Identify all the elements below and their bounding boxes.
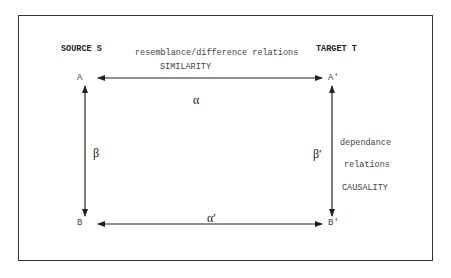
alpha-label: α (193, 94, 199, 106)
dependance-label: dependance (340, 139, 391, 148)
beta-prime-label: β′ (313, 148, 322, 160)
node-b-prime: B' (328, 219, 339, 228)
alpha-prime-label: α′ (207, 212, 216, 224)
node-a: A (77, 74, 82, 83)
causality-label: CAUSALITY (342, 184, 388, 193)
node-b: B (77, 219, 82, 228)
target-label: TARGET T (316, 45, 357, 54)
relations-label: relations (344, 161, 390, 170)
beta-label: β (93, 147, 99, 159)
similarity-label: SIMILARITY (160, 63, 211, 72)
top-relation-label: resemblance/difference relations (135, 49, 298, 58)
node-a-prime: A' (328, 74, 339, 83)
source-label: SOURCE S (61, 45, 102, 54)
